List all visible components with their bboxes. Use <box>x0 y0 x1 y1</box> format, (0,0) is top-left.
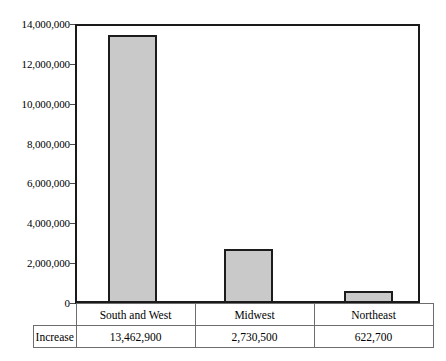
y-axis-tick-label: 10,000,000 <box>4 99 70 110</box>
y-axis-tick-label: 4,000,000 <box>4 218 70 229</box>
table-cell-south-and-west: 13,462,900 <box>76 326 195 348</box>
bar-chart-figure: 14,000,000 12,000,000 10,000,000 8,000,0… <box>0 0 446 361</box>
bar-south-and-west[interactable] <box>108 35 157 303</box>
table-row-headers: South and West Midwest Northeast <box>34 304 434 326</box>
y-axis-tick-label: 12,000,000 <box>4 59 70 70</box>
data-table: South and West Midwest Northeast Increas… <box>33 303 434 348</box>
y-axis-tick-label: 8,000,000 <box>4 139 70 150</box>
y-axis-tick-label: 6,000,000 <box>4 178 70 189</box>
y-axis-tick-label: 2,000,000 <box>4 258 70 269</box>
table-header-south-and-west: South and West <box>76 304 195 326</box>
bar-midwest[interactable] <box>224 249 273 303</box>
table-row-label-increase: Increase <box>34 326 77 348</box>
table-row-increase: Increase 13,462,900 2,730,500 622,700 <box>34 326 434 348</box>
y-axis-tick-label: 14,000,000 <box>4 19 70 30</box>
table-corner-cell <box>34 304 77 326</box>
table-cell-midwest: 2,730,500 <box>195 326 314 348</box>
table-header-northeast: Northeast <box>314 304 433 326</box>
table-cell-northeast: 622,700 <box>314 326 433 348</box>
table-header-midwest: Midwest <box>195 304 314 326</box>
